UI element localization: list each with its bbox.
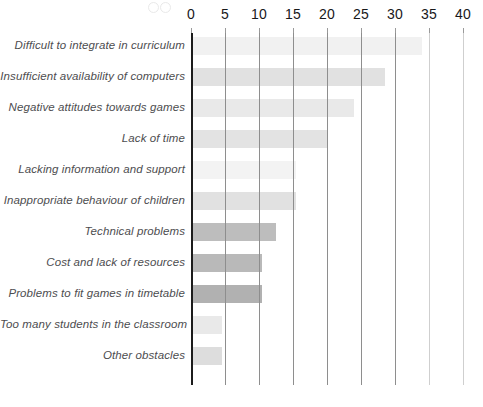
- bar-6: [191, 223, 276, 241]
- bar-5: [191, 192, 296, 210]
- gridline-35: [429, 33, 430, 385]
- gridline-10: [259, 33, 260, 385]
- category-label-3: Lack of time: [0, 132, 185, 144]
- bar-8: [191, 285, 262, 303]
- gridline-30: [395, 33, 396, 385]
- scan-artifact-right: [160, 2, 171, 13]
- category-label-0: Difficult to integrate in curriculum: [0, 39, 185, 51]
- bar-7: [191, 254, 262, 272]
- gridline-5: [225, 33, 226, 385]
- bar-1: [191, 68, 385, 86]
- x-tick-label-10: 10: [251, 6, 267, 22]
- category-label-10: Other obstacles: [0, 349, 185, 361]
- x-tick-label-15: 15: [285, 6, 301, 22]
- x-tick-label-40: 40: [455, 6, 471, 22]
- x-tick-label-5: 5: [221, 6, 229, 22]
- category-label-1: Insufficient availability of computers: [0, 70, 185, 82]
- x-tick-label-0: 0: [187, 6, 195, 22]
- category-axis: Difficult to integrate in curriculum Ins…: [0, 33, 185, 385]
- bar-9: [191, 316, 222, 334]
- category-label-5: Inappropriate behaviour of children: [0, 194, 185, 206]
- category-label-9: Too many students in the classroom: [0, 318, 185, 330]
- gridline-15: [293, 33, 294, 385]
- bar-4: [191, 161, 296, 179]
- bar-2: [191, 99, 354, 117]
- axis-zero-line: [191, 33, 193, 385]
- category-label-4: Lacking information and support: [0, 163, 185, 175]
- scan-artifact-left: [148, 2, 159, 13]
- gridline-40: [463, 33, 464, 385]
- category-label-8: Problems to fit games in timetable: [0, 287, 185, 299]
- category-label-6: Technical problems: [0, 225, 185, 237]
- gridline-25: [361, 33, 362, 385]
- plot-area: 0 5 10 15 20 25 30 35 40: [191, 33, 463, 385]
- category-label-7: Cost and lack of resources: [0, 256, 185, 268]
- x-tick-label-35: 35: [421, 6, 437, 22]
- x-tick-label-30: 30: [387, 6, 403, 22]
- bar-10: [191, 347, 222, 365]
- category-label-2: Negative attitudes towards games: [0, 101, 185, 113]
- bar-chart: Difficult to integrate in curriculum Ins…: [0, 0, 483, 407]
- gridline-20: [327, 33, 328, 385]
- x-tick-label-20: 20: [319, 6, 335, 22]
- x-tick-label-25: 25: [353, 6, 369, 22]
